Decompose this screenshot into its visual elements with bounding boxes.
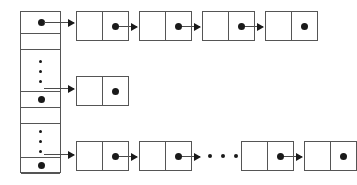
node-1-3 — [202, 11, 255, 41]
bucket-empty-2 — [21, 108, 60, 124]
node-2-1 — [76, 76, 129, 106]
pointer-dot-icon — [112, 88, 119, 95]
node-3-1-key-cell — [77, 142, 103, 170]
node-2-1-key-cell — [77, 77, 103, 105]
arrow-array-to-node-3-1 — [44, 154, 74, 155]
arrow-array-to-node-2-1 — [44, 88, 74, 89]
node-3-1 — [76, 141, 129, 171]
node-3-4 — [304, 141, 357, 171]
vertical-ellipsis-icon — [21, 124, 60, 158]
node-3-2-next-cell — [166, 142, 192, 170]
pointer-dot-icon — [301, 23, 308, 30]
bucket-empty-1 — [21, 34, 60, 50]
pointer-dot-icon — [277, 153, 284, 160]
pointer-dot-icon — [112, 153, 119, 160]
node-3-3-next-cell — [268, 142, 294, 170]
node-3-1-next-cell — [103, 142, 129, 170]
pointer-dot-icon — [175, 23, 182, 30]
bucket-ellipsis-1 — [21, 50, 60, 92]
node-1-1 — [76, 11, 129, 41]
pointer-dot-icon — [340, 153, 347, 160]
pointer-dot-icon — [112, 23, 119, 30]
pointer-dot-icon — [238, 23, 245, 30]
node-1-3-next-cell — [229, 12, 255, 40]
node-1-2 — [139, 11, 192, 41]
vertical-ellipsis-icon — [21, 50, 60, 92]
node-1-2-next-cell — [166, 12, 192, 40]
pointer-dot-icon — [175, 153, 182, 160]
bucket-pointer-1 — [21, 12, 60, 34]
node-3-3 — [241, 141, 294, 171]
node-1-2-key-cell — [140, 12, 166, 40]
node-2-1-next-cell — [103, 77, 129, 105]
node-3-4-next-cell — [331, 142, 357, 170]
arrow-array-to-node-1-1 — [44, 22, 74, 23]
node-3-4-key-cell — [305, 142, 331, 170]
node-1-1-key-cell — [77, 12, 103, 40]
hash-table-diagram — [0, 0, 357, 185]
bucket-pointer-2 — [21, 92, 60, 108]
bucket-empty-3 — [21, 174, 60, 185]
bucket-array — [20, 11, 61, 173]
bucket-ellipsis-2 — [21, 124, 60, 158]
node-1-1-next-cell — [103, 12, 129, 40]
chain-row-3-ellipsis — [208, 154, 238, 158]
bucket-pointer-3 — [21, 158, 60, 174]
node-1-3-key-cell — [203, 12, 229, 40]
node-3-2-key-cell — [140, 142, 166, 170]
pointer-dot-icon — [38, 162, 45, 169]
node-1-4 — [265, 11, 318, 41]
node-3-3-key-cell — [242, 142, 268, 170]
node-1-4-key-cell — [266, 12, 292, 40]
node-3-2 — [139, 141, 192, 171]
node-1-4-next-cell — [292, 12, 318, 40]
pointer-dot-icon — [38, 96, 45, 103]
